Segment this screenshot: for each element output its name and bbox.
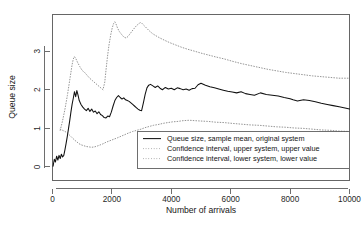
queue-size-line-chart: 0123 Queue size 0200040006000800010000 N… bbox=[0, 0, 362, 231]
x-tick-label: 8000 bbox=[281, 195, 300, 204]
x-tick-label: 2000 bbox=[103, 195, 122, 204]
legend-label: Queue size, sample mean, original system bbox=[167, 134, 305, 143]
legend-label: Confidence interval, upper system, upper… bbox=[167, 144, 320, 153]
y-tick-label: 3 bbox=[33, 48, 42, 53]
x-tick-label: 0 bbox=[50, 195, 55, 204]
x-tick-label: 10000 bbox=[338, 195, 361, 204]
chart-legend: Queue size, sample mean, original system… bbox=[138, 132, 350, 169]
x-tick-label: 6000 bbox=[222, 195, 241, 204]
x-tick-label: 4000 bbox=[162, 195, 181, 204]
y-axis-title: Queue size bbox=[7, 75, 17, 119]
legend-label: Confidence interval, lower system, lower… bbox=[167, 154, 317, 163]
x-axis-title: Number of arrivals bbox=[166, 205, 236, 215]
y-tick-label: 1 bbox=[33, 126, 42, 131]
legend-item-group: Queue size, sample mean, original system… bbox=[143, 134, 320, 163]
y-tick-label: 2 bbox=[33, 87, 42, 92]
chart-figure: 0123 Queue size 0200040006000800010000 N… bbox=[0, 0, 362, 231]
y-tick-label: 0 bbox=[33, 164, 42, 169]
